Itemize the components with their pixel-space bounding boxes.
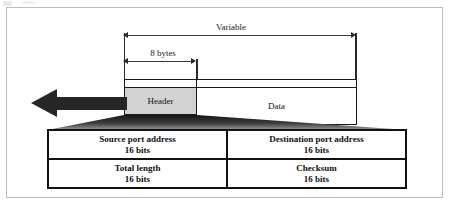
field-size: 16 bits (125, 174, 150, 184)
variable-dimension-line (126, 35, 354, 36)
udp-header-field-table: Source port address 16 bits Destination … (47, 129, 407, 189)
data-box-label: Data (268, 101, 285, 111)
table-row: Total length 16 bits Checksum 16 bits (49, 158, 405, 187)
figure-frame: Variable 8 bytes Header Data (6, 7, 443, 198)
field-cell-checksum: Checksum 16 bits (226, 160, 405, 187)
field-size: 16 bits (304, 145, 329, 155)
header-length-arrowhead-left (123, 58, 128, 64)
field-name: Destination port address (269, 134, 363, 144)
header-length-dimension-line (126, 61, 194, 62)
field-name: Source port address (99, 134, 176, 144)
variable-dimension-label: Variable (141, 22, 321, 32)
field-cell-total-length: Total length 16 bits (49, 160, 226, 187)
scan-artifact-secondary (22, 1, 36, 4)
header-box: Header (124, 87, 197, 115)
header-length-dimension-label: 8 bytes (127, 48, 199, 58)
field-name: Total length (115, 163, 161, 173)
field-cell-destination-port: Destination port address 16 bits (226, 131, 405, 158)
table-row: Source port address 16 bits Destination … (49, 131, 405, 158)
field-name: Checksum (296, 163, 337, 173)
field-cell-source-port: Source port address 16 bits (49, 131, 226, 158)
scan-artifact (3, 1, 12, 6)
header-box-label: Header (148, 96, 174, 106)
udp-datagram-figure: Variable 8 bytes Header Data (0, 0, 451, 206)
field-size: 16 bits (125, 145, 150, 155)
field-size: 16 bits (304, 174, 329, 184)
